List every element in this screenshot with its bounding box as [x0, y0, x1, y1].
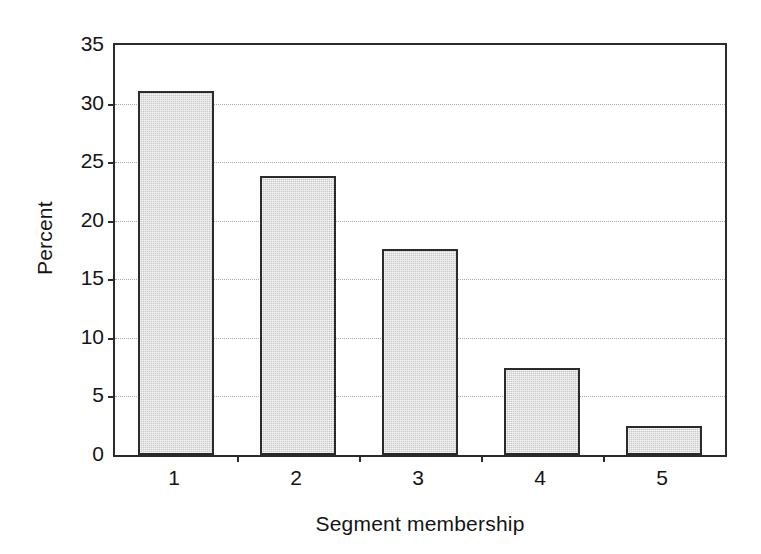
y-axis-tick-label: 15 — [50, 267, 104, 288]
y-axis-tick-label: 5 — [50, 384, 104, 405]
y-axis-tick-mark — [108, 279, 115, 281]
y-axis-tick-label: 25 — [50, 150, 104, 171]
x-axis-tick-mark — [237, 455, 239, 462]
x-axis-tick-labels: 12345 — [113, 466, 727, 498]
x-axis-tick-label: 2 — [276, 466, 316, 490]
y-axis-tick-label: 10 — [50, 326, 104, 347]
y-axis-tick-mark — [108, 162, 115, 164]
plot-area — [113, 43, 727, 457]
y-axis-tick-labels: 05101520253035 — [40, 43, 104, 457]
y-axis-tick-label: 35 — [50, 33, 104, 54]
plot-inner — [115, 45, 725, 455]
y-axis-tick-label: 0 — [50, 443, 104, 464]
bar — [260, 176, 337, 455]
bar-chart: Percent 05101520253035 12345 Segment mem… — [0, 0, 761, 554]
y-axis-tick-mark — [108, 221, 115, 223]
bar — [626, 426, 703, 455]
y-axis-tick-mark — [108, 338, 115, 340]
y-axis-tick-label: 20 — [50, 209, 104, 230]
x-axis-tick-label: 1 — [154, 466, 194, 490]
y-axis-tick-label: 30 — [50, 92, 104, 113]
x-axis-tick-mark — [603, 455, 605, 462]
x-axis-tick-label: 5 — [642, 466, 682, 490]
y-axis-tick-mark — [108, 104, 115, 106]
bar — [138, 91, 215, 455]
x-axis-tick-mark — [359, 455, 361, 462]
bar — [504, 368, 581, 455]
bar — [382, 249, 459, 455]
y-axis-tick-mark — [108, 396, 115, 398]
x-axis-tick-mark — [481, 455, 483, 462]
x-axis-tick-label: 3 — [398, 466, 438, 490]
x-axis-title: Segment membership — [113, 512, 727, 536]
x-axis-tick-label: 4 — [520, 466, 560, 490]
